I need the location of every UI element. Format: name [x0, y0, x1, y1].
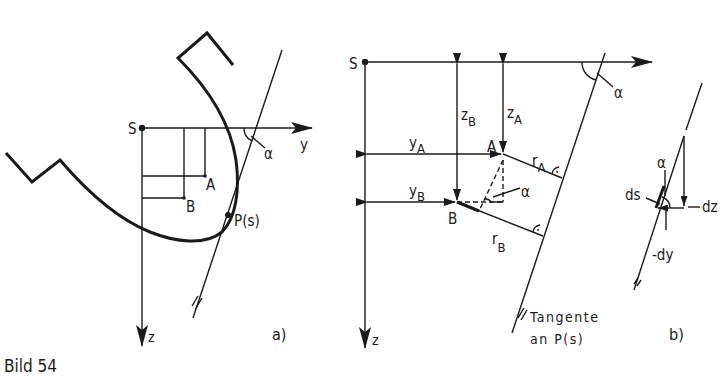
- label-tangent-point: an P(s): [530, 331, 584, 347]
- panel-middle: S z α zB zA yA yB A B α rA rB Tangente a…: [349, 53, 652, 348]
- label-alpha-top: α: [614, 84, 623, 102]
- alpha-leader: [493, 188, 520, 197]
- label-alpha-inner: α: [521, 183, 530, 201]
- angle-arc: [244, 128, 252, 141]
- tangent-top: [686, 83, 702, 130]
- label-yb: yB: [409, 182, 425, 204]
- label-s: S: [349, 55, 358, 73]
- angle-arc: [582, 62, 596, 80]
- label-a: A: [206, 176, 216, 194]
- right-angle-b: [533, 225, 540, 232]
- label-zb: zB: [461, 106, 476, 129]
- label-ds: ds: [625, 186, 641, 204]
- label-panel-b: b): [669, 325, 684, 344]
- label-b: B: [448, 210, 457, 228]
- label-s: S: [128, 120, 137, 138]
- angle-leader: [597, 73, 613, 87]
- panel-b: α ds dz -dy b): [625, 83, 718, 344]
- figure-canvas: S y z A B P(s) α a): [0, 0, 725, 377]
- label-alpha: α: [264, 145, 273, 163]
- label-dz: dz: [702, 198, 718, 216]
- label-ya: yA: [409, 134, 425, 156]
- dot: [537, 229, 539, 231]
- projection-a: [142, 128, 205, 176]
- segment-ds: [457, 202, 479, 211]
- right-angle-a: [552, 167, 559, 174]
- origin-point: [362, 59, 368, 65]
- label-z: z: [372, 332, 379, 348]
- label-dy: -dy: [652, 246, 673, 264]
- label-za: zA: [507, 104, 522, 127]
- label-a: A: [487, 138, 497, 156]
- label-ps: P(s): [234, 212, 260, 230]
- curve-thick: [6, 33, 237, 241]
- label-z: z: [148, 329, 155, 345]
- label-b: B: [186, 198, 195, 216]
- label-ra: rA: [532, 152, 546, 175]
- projection-b: [142, 128, 184, 198]
- label-alpha: α: [657, 154, 666, 172]
- point-p: [225, 212, 231, 218]
- panel-a: S y z A B P(s) α a): [6, 33, 312, 346]
- label-rb: rB: [492, 230, 506, 255]
- dash-diagonal: [479, 160, 503, 211]
- label-panel-a: a): [272, 325, 286, 344]
- figure-caption: Bild 54: [4, 356, 57, 376]
- angle-leader: [251, 136, 265, 148]
- origin-point: [139, 125, 145, 131]
- label-y: y: [300, 136, 308, 154]
- label-tangent: Tangente: [529, 309, 600, 325]
- dot: [556, 171, 558, 173]
